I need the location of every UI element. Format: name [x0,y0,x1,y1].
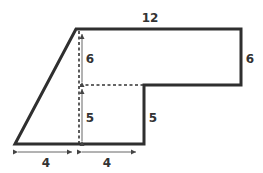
lower-inner-height-label: 5 [86,111,94,125]
shape-outline [15,29,241,144]
upper-inner-height-label: 6 [86,52,94,66]
composite-shape-diagram: 12 6 6 5 5 4 4 [0,0,263,173]
right-height-label: 6 [246,52,254,66]
bottom-left-width-label: 4 [42,156,50,170]
top-width-label: 12 [142,11,159,25]
step-height-label: 5 [149,111,157,125]
bottom-right-width-label: 4 [103,156,111,170]
